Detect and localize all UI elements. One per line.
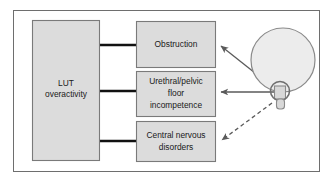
diagram-canvas: LUT overactivity Obstruction Urethral/pe… [0,0,333,184]
lut-overactivity-label-line-1: LUT [58,78,74,88]
cns-label-line-2: disorders [159,142,193,152]
lut-overactivity-label-line-2: overactivity [45,89,88,99]
figure-root: LUT overactivity Obstruction Urethral/pe… [0,0,333,184]
node-urethral-pelvic-floor-incompetence[interactable]: Urethral/pelvic floor incompetence [137,72,216,117]
node-central-nervous-disorders[interactable]: Central nervous disorders [137,122,216,162]
obstruction-label-line-1: Obstruction [155,39,198,49]
arrow-bladder-to-cns [222,103,272,140]
node-obstruction[interactable]: Obstruction [137,22,216,68]
node-lut-overactivity[interactable]: LUT overactivity [33,21,100,161]
bladder-glyph [251,28,315,109]
urethra-stem-lower-icon [277,99,285,109]
cns-label-line-1: Central nervous [146,130,205,140]
urethra-stem-upper-icon [275,86,286,99]
incompetence-label-line-2: floor [168,88,185,98]
incompetence-label-line-3: incompetence [150,100,202,110]
incompetence-label-line-1: Urethral/pelvic [149,76,203,86]
